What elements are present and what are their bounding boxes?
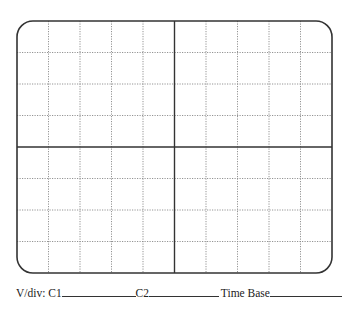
measurement-label-row: V/div: C1 C2 Time Base bbox=[16, 286, 342, 299]
time-base-label: Time Base bbox=[221, 287, 270, 299]
c2-blank-field[interactable] bbox=[149, 286, 219, 297]
c2-label: C2 bbox=[136, 287, 149, 299]
vdiv-c1-label: V/div: C1 bbox=[16, 287, 62, 299]
grid-center-axes bbox=[17, 21, 332, 273]
oscilloscope-graticule bbox=[0, 0, 350, 314]
time-base-blank-field[interactable] bbox=[270, 286, 342, 297]
c1-blank-field[interactable] bbox=[62, 286, 136, 297]
